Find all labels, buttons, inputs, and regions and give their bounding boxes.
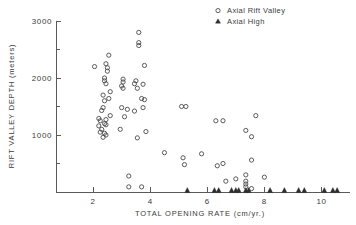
data-point-circle <box>127 174 131 178</box>
data-point-circle <box>101 93 105 97</box>
legend-label: Axial Rift Valley <box>227 6 285 15</box>
legend-marker-triangle <box>216 19 221 23</box>
data-point-triangle <box>229 188 234 193</box>
x-axis-title: TOTAL OPENING RATE (cm/yr.) <box>135 209 265 218</box>
legend-marker-circle <box>216 9 220 13</box>
data-point-triangle <box>282 188 287 193</box>
data-point-circle <box>137 43 141 47</box>
x-tick-label: 6 <box>205 197 210 206</box>
data-point-circle <box>107 53 111 57</box>
y-axis-tick-labels: 100020003000 <box>32 17 52 140</box>
data-point-circle <box>234 177 238 181</box>
data-point-circle <box>249 135 253 139</box>
data-point-circle <box>142 63 146 67</box>
data-point-circle <box>244 128 248 132</box>
data-point-circle <box>144 129 148 133</box>
x-tick-label: 4 <box>148 197 153 206</box>
data-point-triangle <box>216 188 221 193</box>
axis-frame <box>56 21 350 192</box>
data-point-circle <box>140 185 144 189</box>
data-point-circle <box>244 173 248 177</box>
data-point-circle <box>102 99 106 103</box>
data-point-circle <box>199 152 203 156</box>
data-point-circle <box>221 161 225 165</box>
plot-canvas: 100020003000 246810 TOTAL OPENING RATE (… <box>0 0 356 225</box>
data-point-circle <box>184 104 188 108</box>
y-axis-ticks <box>56 21 61 192</box>
data-point-circle <box>221 119 225 123</box>
data-point-circle <box>141 82 145 86</box>
data-point-circle <box>182 163 186 167</box>
data-point-circle <box>181 156 185 160</box>
data-point-circle <box>179 104 183 108</box>
data-point-triangle <box>212 188 217 193</box>
data-point-circle <box>254 114 258 118</box>
x-tick-label: 8 <box>262 197 267 206</box>
data-point-circle <box>92 65 96 69</box>
data-point-circle <box>249 158 253 162</box>
data-point-triangle <box>296 188 301 193</box>
data-point-triangle <box>268 188 273 193</box>
series-axial-rift-valley <box>92 30 266 190</box>
x-tick-label: 2 <box>91 197 96 206</box>
data-point-circle <box>215 164 219 168</box>
data-point-triangle <box>185 188 190 193</box>
data-point-circle <box>118 127 122 131</box>
y-tick-label: 1000 <box>32 131 52 140</box>
data-point-circle <box>135 86 139 90</box>
data-point-circle <box>224 179 228 183</box>
data-point-triangle <box>302 188 307 193</box>
data-point-circle <box>125 107 129 111</box>
y-tick-label: 2000 <box>32 74 52 83</box>
data-point-circle <box>141 106 145 110</box>
data-point-circle <box>262 175 266 179</box>
data-point-triangle <box>330 188 335 193</box>
data-point-circle <box>137 30 141 34</box>
data-point-circle <box>101 135 105 139</box>
y-tick-label: 3000 <box>32 17 52 26</box>
data-point-circle <box>108 114 112 118</box>
y-axis-title: RIFT VALLEY DEPTH (meters) <box>7 44 16 169</box>
data-point-triangle <box>322 188 327 193</box>
data-point-circle <box>132 109 136 113</box>
data-point-circle <box>162 151 166 155</box>
x-tick-label: 10 <box>316 197 326 206</box>
data-point-circle <box>108 90 112 94</box>
data-points-group <box>92 30 339 192</box>
data-point-circle <box>120 106 124 110</box>
data-point-circle <box>122 115 126 119</box>
data-point-triangle <box>335 188 340 193</box>
data-point-circle <box>214 119 218 123</box>
data-point-circle <box>135 136 139 140</box>
scatter-plot-figure: 100020003000 246810 TOTAL OPENING RATE (… <box>0 0 356 225</box>
x-axis-tick-labels: 246810 <box>91 197 327 206</box>
data-point-circle <box>127 185 131 189</box>
legend-label: Axial High <box>227 17 265 26</box>
data-point-circle <box>107 96 111 100</box>
legend: Axial Rift ValleyAxial High <box>216 6 286 26</box>
